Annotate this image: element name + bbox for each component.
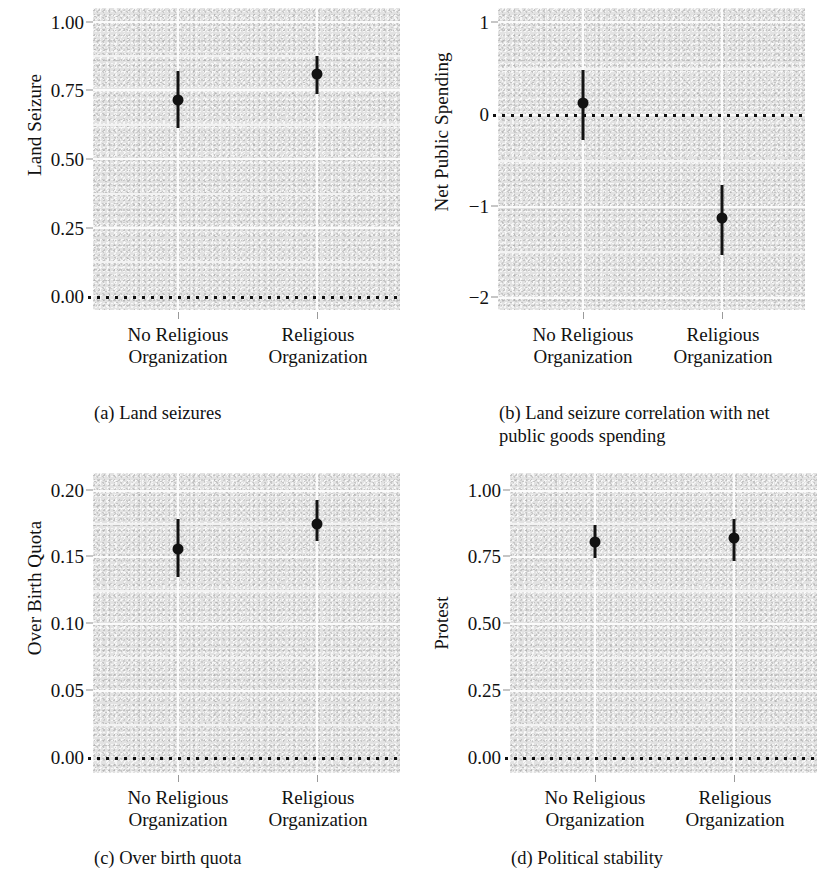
panel-c-over-birth-quota: Over Birth Quota 0.20 0.15 0.10 0.05 0.0… [0,443,417,886]
panel-a-y-tick-mark [86,90,93,91]
panel-a-x-label-religious-organization: Religious Organization [245,324,391,369]
panel-c-y-tick: 0.00 [51,748,84,767]
panel-c-y-tick-labels: 0.20 0.15 0.10 0.05 0.00 [0,443,84,773]
gridline-vertical [582,8,584,310]
panel-d-y-tick: 0.50 [468,614,501,633]
panel-a-x-tick-mark [178,312,179,319]
gridline [510,690,817,692]
panel-c-y-tick: 0.15 [51,547,84,566]
panel-c-x-tick-mark [317,775,318,782]
gridline-minor [93,124,400,126]
panel-b-caption: (b) Land seizure correlation with net pu… [499,402,804,448]
panel-a-y-tick-labels: 1.00 0.75 0.50 0.25 0.00 [0,0,84,320]
panel-b-x-tick-mark [722,312,723,319]
gridline-minor [93,55,400,57]
panel-b-y-tick-mark [491,206,498,207]
gridline-minor [93,724,400,726]
panel-a-y-tick: 1.00 [51,13,84,32]
panel-b-point-no-religious-organization [578,98,589,109]
panel-a-y-tick: 0.75 [51,81,84,100]
panel-a-plot-area [93,8,400,310]
panel-c-x-tick-mark [178,775,179,782]
figure-four-panel-estimates: Land Seizure 1.00 0.75 0.50 0.25 0.00 [0,0,834,886]
panel-a-y-tick: 0.50 [51,150,84,169]
gridline-minor [93,523,400,525]
gridline [510,556,817,558]
gridline [93,158,400,160]
gridline [93,21,400,23]
panel-b-y-tick: 0 [480,105,490,124]
panel-a-x-tick-mark [317,312,318,319]
panel-c-y-tick: 0.10 [51,614,84,633]
panel-c-y-tick-mark [86,556,93,557]
gridline [93,556,400,558]
gridline-minor [93,261,400,263]
panel-d-y-tick: 0.00 [468,748,501,767]
gridline [510,623,817,625]
panel-d-y-tick: 0.75 [468,547,501,566]
gridline [93,490,400,492]
panel-d-x-label-no-religious-organization: No Religious Organization [517,787,673,832]
panel-c-y-tick-mark [86,623,93,624]
panel-a-y-tick-mark [86,22,93,23]
panel-a-land-seizures: Land Seizure 1.00 0.75 0.50 0.25 0.00 [0,0,417,443]
panel-b-zero-reference-line [490,114,805,117]
gridline-minor [498,251,805,253]
panel-c-y-tick: 0.20 [51,481,84,500]
gridline-vertical [177,8,179,310]
gridline-vertical [733,473,735,773]
panel-a-y-tick-mark [86,228,93,229]
panel-d-y-tick-labels: 1.00 0.75 0.50 0.25 0.00 [417,443,501,773]
gridline [498,21,805,23]
panel-b-y-tick-mark [491,297,498,298]
panel-d-zero-reference-line [502,757,817,760]
gridline-minor [510,590,817,592]
panel-d-x-label-religious-organization: Religious Organization [662,787,808,832]
panel-c-point-religious-organization [312,519,323,530]
panel-c-y-tick-mark [86,490,93,491]
panel-d-x-tick-mark [734,775,735,782]
panel-c-x-label-no-religious-organization: No Religious Organization [100,787,256,832]
gridline [93,623,400,625]
panel-d-y-tick: 0.25 [468,681,501,700]
gridline-minor [93,590,400,592]
panel-a-point-no-religious-organization [173,95,184,106]
panel-d-point-no-religious-organization [590,537,601,548]
panel-c-plot-area [93,473,400,773]
gridline-minor [510,724,817,726]
panel-a-zero-reference-line [85,296,400,299]
panel-b-y-tick-mark [491,22,498,23]
panel-d-y-tick: 1.00 [468,481,501,500]
panel-c-y-tick: 0.05 [51,681,84,700]
gridline-minor [510,657,817,659]
gridline-vertical [594,473,596,773]
panel-b-point-religious-organization [717,213,728,224]
gridline-minor [93,193,400,195]
gridline-minor [510,523,817,525]
panel-a-y-tick: 0.25 [51,219,84,238]
gridline [510,490,817,492]
gridline-vertical [721,8,723,310]
gridline-minor [93,657,400,659]
panel-b-y-tick-labels: 1 0 −1 −2 [417,0,489,320]
panel-c-caption: (c) Over birth quota [94,847,394,870]
panel-d-x-tick-mark [595,775,596,782]
panel-d-y-tick-mark [503,490,510,491]
gridline [93,89,400,91]
panel-b-x-label-religious-organization: Religious Organization [650,324,796,369]
panel-c-x-label-religious-organization: Religious Organization [245,787,391,832]
panel-d-point-religious-organization [729,533,740,544]
panel-b-plot-area [498,8,805,310]
gridline-vertical [316,8,318,310]
gridline [498,206,805,208]
panel-d-y-tick-mark [503,690,510,691]
gridline-minor [498,160,805,162]
panel-a-y-tick-mark [86,159,93,160]
gridline [93,690,400,692]
panel-a-point-religious-organization [312,69,323,80]
panel-d-y-tick-mark [503,623,510,624]
gridline-vertical [177,473,179,773]
panel-a-caption: (a) Land seizures [94,402,394,425]
gridline [498,297,805,299]
gridline-minor [498,68,805,70]
